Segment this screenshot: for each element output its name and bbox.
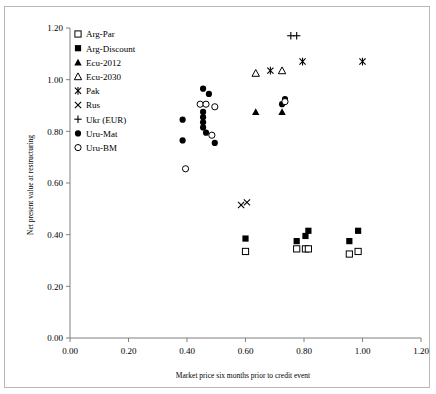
legend-label-uru-mat: Uru-Mat	[86, 129, 118, 139]
data-point-ecu-2030	[278, 67, 285, 74]
legend-marker-arg-par	[75, 31, 81, 37]
data-point-uru-mat	[180, 117, 186, 123]
data-point-arg-discount	[355, 228, 361, 234]
data-point-uru-bm	[209, 132, 215, 138]
y-tick-label: 0.60	[47, 178, 63, 188]
data-point-uru-mat	[180, 137, 186, 143]
legend-marker-rus	[75, 102, 81, 108]
data-point-rus	[238, 202, 244, 208]
data-point-ukr-eur	[293, 32, 300, 39]
data-point-ecu-2012	[252, 108, 259, 115]
x-tick-label: 0.20	[121, 346, 137, 356]
legend-label-pak: Pak	[86, 86, 100, 96]
legend-label-ecu-2030: Ecu-2030	[86, 72, 121, 82]
chart-legend: Arg-ParArg-DiscountEcu-2012Ecu-2030PakRu…	[74, 29, 136, 153]
x-tick-label: 0.60	[238, 346, 254, 356]
data-point-rus	[244, 199, 250, 205]
data-point-arg-discount	[305, 228, 311, 234]
x-axis: 0.000.200.400.600.801.001.20	[62, 338, 429, 356]
data-point-arg-par	[346, 251, 352, 257]
legend-marker-pak	[75, 87, 81, 95]
legend-label-ukr-eur: Ukr (EUR)	[86, 115, 126, 125]
data-point-arg-par	[294, 246, 300, 252]
data-point-uru-bm	[197, 101, 203, 107]
legend-label-arg-discount: Arg-Discount	[86, 44, 136, 54]
data-point-arg-discount	[294, 238, 300, 244]
y-tick-label: 1.00	[47, 75, 63, 85]
legend-label-uru-bm: Uru-BM	[86, 143, 117, 153]
data-point-uru-bm	[203, 101, 209, 107]
data-point-ecu-2012	[278, 108, 285, 115]
chart-svg: 0.000.200.400.600.801.001.20 0.000.200.4…	[0, 0, 436, 394]
x-tick-label: 0.40	[179, 346, 195, 356]
legend-marker-uru-mat	[75, 130, 81, 136]
y-axis-title: Net present value at restructuring	[26, 135, 35, 235]
data-point-pak	[267, 67, 273, 75]
data-point-uru-bm	[182, 166, 188, 172]
x-tick-label: 1.00	[355, 346, 371, 356]
data-point-pak	[299, 58, 305, 66]
legend-label-ecu-2012: Ecu-2012	[86, 58, 121, 68]
data-point-pak	[359, 58, 365, 66]
x-axis-title: Market price six months prior to credit …	[176, 371, 311, 380]
data-point-arg-par	[355, 248, 361, 254]
x-tick-label: 1.20	[413, 346, 429, 356]
y-tick-label: 1.20	[47, 23, 63, 33]
data-point-uru-mat	[206, 91, 212, 97]
legend-marker-ecu-2030	[74, 73, 81, 80]
data-point-arg-par	[242, 248, 248, 254]
data-point-uru-bm	[212, 104, 218, 110]
data-point-uru-mat	[212, 140, 218, 146]
legend-label-arg-par: Arg-Par	[86, 29, 115, 39]
legend-label-rus: Rus	[86, 100, 101, 110]
y-tick-label: 0.00	[47, 333, 63, 343]
data-points	[180, 32, 366, 257]
y-tick-label: 0.20	[47, 282, 63, 292]
x-tick-label: 0.00	[62, 346, 78, 356]
x-tick-label: 0.80	[296, 346, 312, 356]
data-point-arg-discount	[346, 238, 352, 244]
data-point-uru-mat	[203, 130, 209, 136]
scatter-chart: 0.000.200.400.600.801.001.20 0.000.200.4…	[0, 0, 436, 394]
data-point-ecu-2030	[252, 70, 259, 77]
legend-marker-ukr-eur	[74, 116, 81, 123]
y-axis: 0.000.200.400.600.801.001.20	[47, 23, 70, 343]
data-point-arg-par	[305, 246, 311, 252]
data-point-uru-bm	[282, 99, 288, 105]
legend-marker-uru-bm	[75, 145, 81, 151]
y-tick-label: 0.80	[47, 127, 63, 137]
data-point-arg-discount	[242, 235, 248, 241]
legend-marker-ecu-2012	[74, 59, 81, 66]
y-tick-label: 0.40	[47, 230, 63, 240]
legend-marker-arg-discount	[75, 45, 81, 51]
data-point-uru-mat	[200, 86, 206, 92]
